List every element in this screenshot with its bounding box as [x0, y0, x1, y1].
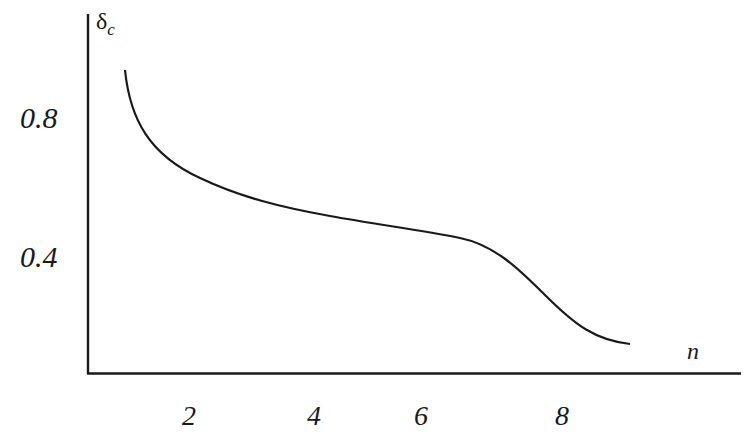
- chart-canvas: [0, 0, 755, 448]
- x-tick-label: 8: [555, 400, 569, 432]
- x-tick-label: 4: [307, 400, 321, 432]
- chart: δc 0.8 0.4 2 4 6 8 n: [0, 0, 755, 448]
- y-tick-label: 0.8: [20, 101, 58, 135]
- y-axis-label-sub: c: [107, 20, 115, 39]
- x-tick-label: 6: [414, 400, 428, 432]
- x-axis-label: n: [687, 338, 699, 365]
- y-axis-label: δc: [96, 8, 115, 40]
- x-tick-label: 2: [182, 400, 196, 432]
- y-axis-label-main: δ: [96, 8, 107, 34]
- y-tick-label: 0.4: [20, 240, 58, 274]
- data-line-delta-c: [125, 70, 630, 344]
